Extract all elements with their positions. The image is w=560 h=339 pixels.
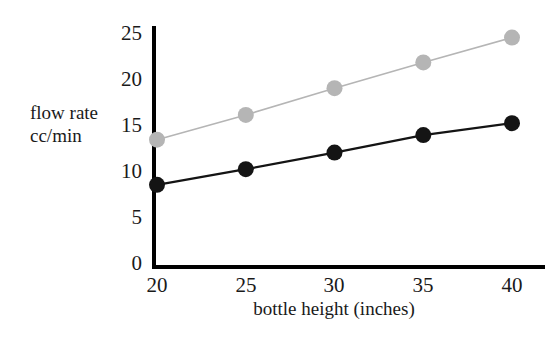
- y-tick-label-10: 10: [104, 161, 142, 182]
- x-tick-label-30: 30: [324, 275, 345, 296]
- chart-figure: 25 20 15 10 5 0 20 25 30 35 40 bottle he…: [0, 0, 560, 339]
- data-point-marker: [415, 54, 431, 70]
- data-point-marker: [238, 161, 254, 177]
- data-point-marker: [327, 80, 343, 96]
- data-point-marker: [504, 115, 520, 131]
- y-tick-label-25: 25: [104, 23, 142, 44]
- y-tick-label-20: 20: [104, 69, 142, 90]
- x-tick-label-35: 35: [413, 275, 434, 296]
- y-tick-label-0: 0: [104, 253, 142, 274]
- data-point-marker: [149, 132, 165, 148]
- y-axis-title-line-1: flow rate: [30, 101, 98, 124]
- y-tick-label-15: 15: [104, 115, 142, 136]
- x-tick-label-20: 20: [147, 275, 168, 296]
- data-point-marker: [149, 177, 165, 193]
- data-point-marker: [504, 30, 520, 46]
- x-axis-title: bottle height (inches): [253, 299, 414, 318]
- y-axis-title-line-2: cc/min: [30, 124, 98, 147]
- x-tick-label-25: 25: [236, 275, 257, 296]
- series-layer: [149, 30, 520, 193]
- y-tick-label-5: 5: [104, 207, 142, 228]
- data-point-marker: [327, 145, 343, 161]
- y-axis-title: flow rate cc/min: [30, 101, 98, 147]
- chart-plot-area: [0, 0, 560, 339]
- data-point-marker: [238, 107, 254, 123]
- x-tick-label-40: 40: [502, 275, 523, 296]
- data-point-marker: [415, 127, 431, 143]
- axis-lines: [154, 26, 545, 267]
